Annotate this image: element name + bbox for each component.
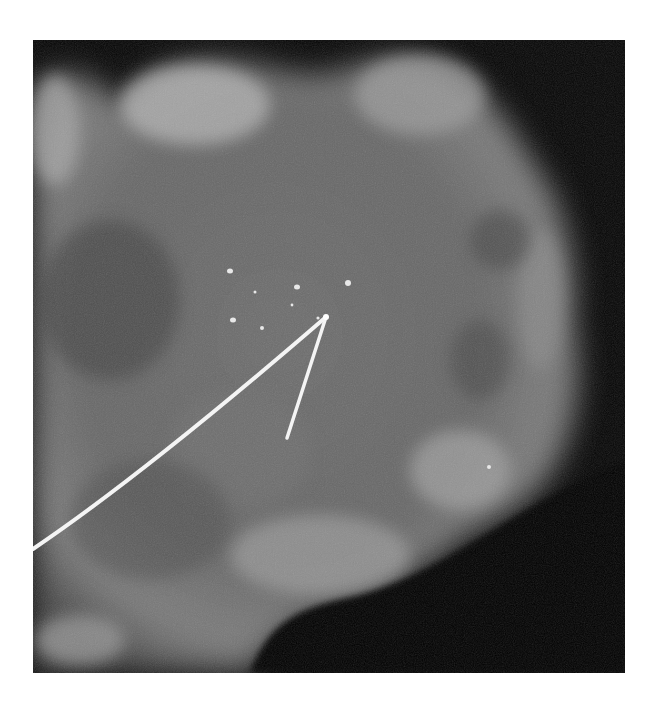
specimen-radiograph xyxy=(33,40,625,673)
radiograph-frame xyxy=(33,40,625,673)
